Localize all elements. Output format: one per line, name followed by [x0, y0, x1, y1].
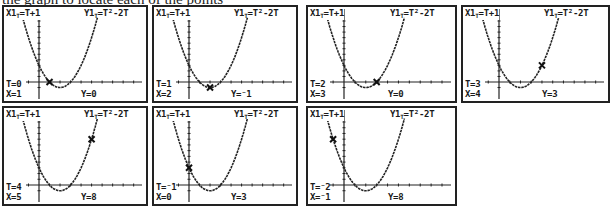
x-equation-label: X1T=T+1: [465, 9, 499, 20]
trace-x-value: X=3: [310, 90, 325, 99]
trace-x-value: X=4: [465, 90, 480, 99]
y-equation-label: Y1T=T²-2T: [234, 110, 278, 121]
graph-plot: [463, 7, 608, 101]
y-equation-label: Y1T=T²-2T: [390, 110, 434, 121]
trace-x-value: X=⁻1: [310, 193, 330, 202]
x-equation-label: X1T=T+1: [6, 110, 40, 121]
graph-plot: [4, 108, 146, 204]
trace-y-value: Y=0: [81, 90, 96, 99]
trace-y-value: Y=3: [542, 90, 557, 99]
trace-y-value: Y=0: [388, 90, 403, 99]
trace-t-value: T=⁻2: [310, 183, 330, 192]
x-equation-label: X1T=T+1: [156, 9, 190, 20]
trace-y-value: Y=8: [388, 193, 403, 202]
trace-y-value: Y=8: [81, 193, 96, 202]
graph-plot: [154, 7, 296, 101]
parametric-curve: [482, 16, 559, 88]
x-equation-label: X1T=T+1: [310, 110, 344, 121]
trace-y-value: Y=3: [231, 193, 246, 202]
graph-plot: [308, 7, 455, 101]
trace-y-value: Y=⁻1: [231, 90, 251, 99]
parametric-curve: [172, 16, 247, 88]
trace-t-value: T=0: [6, 80, 21, 89]
trace-x-value: X=2: [156, 90, 171, 99]
x-equation-label: X1T=T+1: [156, 110, 190, 121]
y-equation-label: Y1T=T²-2T: [390, 9, 434, 20]
trace-cursor-icon: [539, 62, 545, 68]
y-equation-label: Y1T=T²-2T: [84, 110, 128, 121]
parametric-curve: [172, 117, 247, 191]
trace-x-value: X=0: [156, 193, 171, 202]
trace-x-value: X=5: [6, 193, 21, 202]
calculator-screen: X1T=T+1Y1T=T²-2TT=0X=1Y=0: [2, 5, 148, 103]
parametric-curve: [327, 117, 405, 191]
parametric-curve: [22, 16, 97, 88]
calculator-screen: X1T=T+1Y1T=T²-2TT=⁻1X=0Y=3: [152, 106, 298, 206]
trace-x-value: X=1: [6, 90, 21, 99]
trace-t-value: T=⁻1: [156, 183, 176, 192]
parametric-curve: [22, 117, 97, 191]
calculator-screen: X1T=T+1Y1T=T²-2TT=3X=4Y=3: [461, 5, 610, 103]
calculator-screen: X1T=T+1Y1T=T²-2TT=⁻2X=⁻1Y=8: [306, 106, 457, 206]
trace-t-value: T=2: [310, 80, 325, 89]
x-equation-label: X1T=T+1: [310, 9, 344, 20]
y-equation-label: Y1T=T²-2T: [544, 9, 588, 20]
graph-plot: [4, 7, 146, 101]
trace-t-value: T=4: [6, 183, 21, 192]
y-equation-label: Y1T=T²-2T: [234, 9, 278, 20]
trace-t-value: T=1: [156, 80, 171, 89]
calculator-screen: X1T=T+1Y1T=T²-2TT=4X=5Y=8: [2, 106, 148, 206]
trace-t-value: T=3: [465, 80, 480, 89]
parametric-curve: [327, 16, 405, 88]
x-equation-label: X1T=T+1: [6, 9, 40, 20]
calculator-screen: X1T=T+1Y1T=T²-2TT=1X=2Y=⁻1: [152, 5, 298, 103]
y-equation-label: Y1T=T²-2T: [84, 9, 128, 20]
calculator-screen: X1T=T+1Y1T=T²-2TT=2X=3Y=0: [306, 5, 457, 103]
